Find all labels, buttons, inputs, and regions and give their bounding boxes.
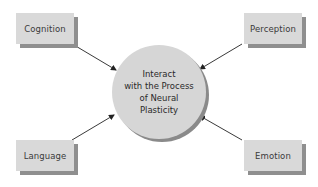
center-line-4: Plasticity xyxy=(119,104,199,116)
node-perception-label: Perception xyxy=(244,13,302,44)
center-node: Interact with the Process of Neural Plas… xyxy=(112,45,206,139)
arrow-language-to-center xyxy=(72,115,114,140)
diagram-canvas: Interact with the Process of Neural Plas… xyxy=(0,0,318,187)
center-line-2: with the Process xyxy=(119,80,199,92)
node-cognition-label: Cognition xyxy=(16,13,74,44)
node-perception: Perception xyxy=(244,13,302,44)
center-line-1: Interact xyxy=(119,68,199,80)
center-line-3: of Neural xyxy=(119,92,199,104)
node-language-label: Language xyxy=(16,140,74,171)
arrow-emotion-to-center xyxy=(200,116,242,140)
node-language: Language xyxy=(16,140,74,171)
arrow-perception-to-center xyxy=(200,44,242,69)
arrow-cognition-to-center xyxy=(74,45,116,70)
node-emotion-label: Emotion xyxy=(244,140,302,171)
center-node-label: Interact with the Process of Neural Plas… xyxy=(119,68,199,116)
node-emotion: Emotion xyxy=(244,140,302,171)
node-cognition: Cognition xyxy=(16,13,74,44)
